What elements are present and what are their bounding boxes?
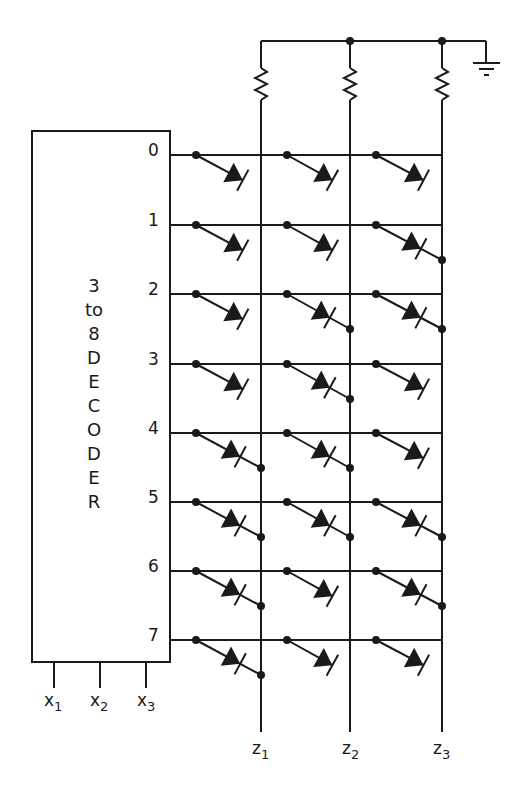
decoder-title-char: R: [79, 493, 109, 511]
connection-dot: [257, 602, 265, 610]
junction-dot: [438, 37, 446, 45]
diode-icon: [372, 290, 446, 333]
diode-icon: [372, 221, 446, 264]
diode-icon: [283, 151, 338, 191]
diode-icon: [283, 290, 354, 333]
output-label-z1: z1: [252, 740, 269, 761]
diode-icon: [283, 636, 338, 676]
input-label-x1: x1: [44, 692, 62, 713]
input-label-x3: x3: [137, 692, 155, 713]
decoder-output-label-1: 1: [148, 212, 159, 229]
diode-icon: [192, 290, 248, 330]
decoder-title-char: E: [79, 373, 109, 391]
diode-rom-diagram: 3to8DECODER01234567x1x2x3z1z2z3: [0, 0, 516, 793]
diode-icon: [372, 636, 429, 676]
decoder-title-char: D: [79, 445, 109, 463]
diode-icon: [192, 429, 265, 472]
decoder-output-label-2: 2: [148, 281, 159, 298]
decoder-title-char: C: [79, 397, 109, 415]
diode-icon: [192, 567, 265, 610]
connection-dot: [438, 602, 446, 610]
connection-dot: [257, 671, 265, 679]
decoder-title-char: 8: [79, 325, 109, 343]
resistor-icon: [436, 68, 448, 100]
connection-dot: [438, 256, 446, 264]
input-label-x2: x2: [90, 692, 108, 713]
output-label-z2: z2: [342, 740, 359, 761]
decoder-output-label-6: 6: [148, 558, 159, 575]
diode-icon: [192, 221, 248, 261]
decoder-output-label-4: 4: [148, 420, 159, 437]
resistor-icon: [255, 68, 267, 100]
junction-dot: [346, 37, 354, 45]
connection-dot: [438, 325, 446, 333]
diode-icon: [372, 360, 429, 400]
diode-icon: [283, 221, 338, 261]
diode-icon: [372, 567, 446, 610]
diode-icon: [283, 498, 354, 541]
connection-dot: [257, 533, 265, 541]
decoder-output-label-7: 7: [148, 627, 159, 644]
connection-dot: [346, 395, 354, 403]
connection-dot: [257, 464, 265, 472]
decoder-title-char: E: [79, 469, 109, 487]
connection-dot: [346, 533, 354, 541]
decoder-output-label-5: 5: [148, 489, 159, 506]
connection-dot: [346, 325, 354, 333]
schematic-canvas: [0, 0, 516, 793]
output-label-z3: z3: [433, 740, 450, 761]
diode-icon: [283, 360, 354, 403]
diode-icon: [283, 429, 354, 472]
connection-dot: [346, 464, 354, 472]
output-column-z3: [436, 37, 448, 732]
diode-icon: [372, 498, 446, 541]
decoder-title-char: O: [79, 421, 109, 439]
decoder-output-label-0: 0: [148, 142, 159, 159]
diode-icon: [283, 567, 338, 607]
resistor-icon: [344, 68, 356, 100]
diode-icon: [192, 498, 265, 541]
diode-icon: [192, 151, 248, 191]
decoder-title-char: to: [79, 301, 109, 319]
output-column-z2: [344, 37, 356, 732]
decoder-title-char: D: [79, 349, 109, 367]
output-column-z1: [255, 41, 267, 732]
diode-icon: [372, 151, 429, 191]
decoder-output-label-3: 3: [148, 351, 159, 368]
connection-dot: [438, 533, 446, 541]
decoder-title-char: 3: [79, 277, 109, 295]
diode-icon: [192, 360, 248, 400]
ground-icon: [473, 63, 500, 75]
diode-icon: [192, 636, 265, 679]
diode-icon: [372, 429, 429, 469]
